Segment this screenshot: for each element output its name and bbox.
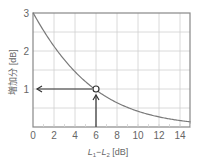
x-tick-label: 4 — [72, 130, 78, 141]
y-tick-labels: 123 — [23, 8, 29, 95]
grid-lines — [33, 13, 190, 127]
x-tick-label: 6 — [93, 130, 99, 141]
y-tick-label: 2 — [23, 46, 29, 57]
y-axis-label: 増加分 [dB] — [7, 49, 18, 95]
x-tick-label: 10 — [132, 130, 144, 141]
x-tick-label: 14 — [174, 130, 186, 141]
x-tick-label: 8 — [114, 130, 120, 141]
x-axis-label: L1−L2 [dB] — [88, 147, 129, 158]
point-marker-icon — [93, 86, 99, 92]
data-curve — [33, 13, 191, 122]
x-tick-label: 12 — [153, 130, 165, 141]
annotations — [37, 86, 99, 127]
x-tick-label: 0 — [30, 130, 36, 141]
y-tick-label: 1 — [23, 84, 29, 95]
y-tick-label: 3 — [23, 8, 29, 19]
chart: 02468101214 123 増加分 [dB] L1−L2 [dB] — [0, 0, 197, 164]
x-tick-label: 2 — [51, 130, 57, 141]
x-tick-labels: 02468101214 — [30, 130, 186, 141]
